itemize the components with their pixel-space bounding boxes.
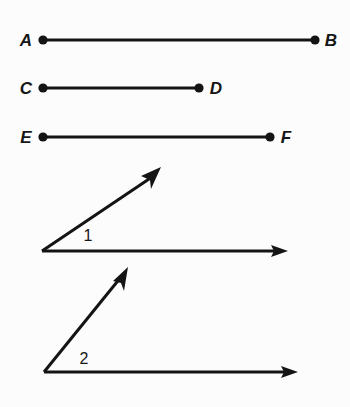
segment-ef: E F — [20, 128, 291, 147]
label-point-f: F — [281, 128, 292, 147]
angle-2-label: 2 — [80, 350, 89, 367]
segment-ef-endpoint-e — [38, 132, 47, 141]
angle-2-diagonal-arrowhead — [113, 267, 128, 291]
label-point-d: D — [210, 79, 222, 98]
angle-1-diagonal-arrowhead — [141, 167, 161, 189]
angle-1-diagonal-ray — [42, 177, 152, 251]
label-point-e: E — [20, 128, 32, 147]
segment-ab: A B — [19, 31, 337, 50]
segment-ef-endpoint-f — [265, 132, 274, 141]
geometry-figure: A B C D E F 1 — [0, 0, 350, 407]
label-point-c: C — [20, 79, 33, 98]
label-point-a: A — [19, 31, 32, 50]
geometry-canvas: A B C D E F 1 — [0, 0, 350, 407]
segment-cd: C D — [20, 79, 222, 98]
segment-ab-endpoint-b — [310, 35, 319, 44]
label-point-b: B — [325, 31, 337, 50]
segment-cd-endpoint-c — [38, 83, 47, 92]
segment-ab-endpoint-a — [38, 35, 47, 44]
angle-1-label: 1 — [84, 227, 93, 244]
angle-2: 2 — [44, 267, 298, 378]
angle-1: 1 — [42, 167, 288, 257]
segment-cd-endpoint-d — [194, 83, 203, 92]
